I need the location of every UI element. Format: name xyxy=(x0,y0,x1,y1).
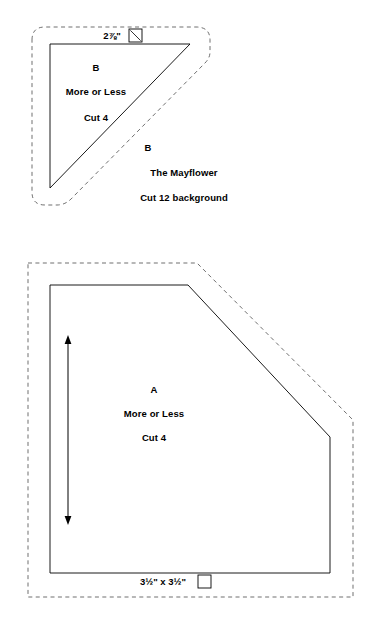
piece-a-letter: A xyxy=(151,384,158,395)
square-icon xyxy=(198,575,211,588)
piece-a-measurement-label: 3½" x 3½" xyxy=(140,576,186,587)
piece-b-cut-instruction-bottom: Cut 12 background xyxy=(140,192,228,203)
piece-b-group: B More or Less Cut 4 B The Mayflower Cut… xyxy=(32,27,228,205)
piece-a-cut-line xyxy=(50,285,330,573)
piece-a-block-name: More or Less xyxy=(124,408,184,419)
pattern-canvas: B More or Less Cut 4 B The Mayflower Cut… xyxy=(0,0,389,625)
piece-a-seam-allowance-line xyxy=(28,263,353,597)
piece-a-cut-instruction: Cut 4 xyxy=(142,432,167,443)
piece-b-cut-instruction-top: Cut 4 xyxy=(84,112,109,123)
piece-a-grain-line-arrow xyxy=(65,335,72,525)
piece-b-letter-bottom: B xyxy=(145,142,152,153)
piece-b-block-name-bottom: The Mayflower xyxy=(150,167,217,178)
pattern-sheet: B More or Less Cut 4 B The Mayflower Cut… xyxy=(0,0,389,625)
piece-b-seam-allowance-line xyxy=(32,27,210,205)
piece-b-letter-top: B xyxy=(93,62,100,73)
square-with-diagonal-icon xyxy=(129,29,142,42)
piece-b-measurement-label: 2⅞" xyxy=(103,30,121,41)
piece-a-group: A More or Less Cut 4 3½" x 3½" xyxy=(28,263,353,597)
piece-b-block-name-top: More or Less xyxy=(66,86,126,97)
